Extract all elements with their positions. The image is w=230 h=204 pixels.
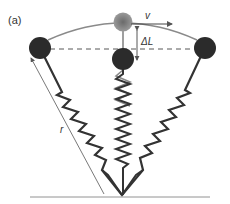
center-ball — [112, 48, 134, 70]
left-spring — [44, 56, 122, 195]
top-ball — [114, 13, 133, 32]
delta-l-label: ΔL — [140, 36, 153, 47]
panel-label: (a) — [8, 14, 21, 26]
radius-label: r — [60, 124, 64, 135]
right-ball — [194, 37, 216, 59]
spring-pendulum-diagram: (a) r v ΔL — [0, 0, 230, 204]
right-spring — [122, 56, 201, 195]
left-ball — [29, 37, 51, 59]
radius-arrow — [31, 58, 104, 194]
velocity-label: v — [145, 10, 151, 21]
